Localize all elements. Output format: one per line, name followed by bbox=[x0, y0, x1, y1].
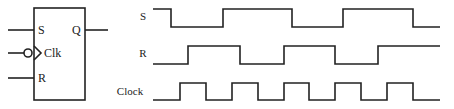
r-input-label: R bbox=[38, 71, 46, 85]
sr-flipflop-symbol: S Clk R Q bbox=[8, 8, 108, 100]
waveform-s bbox=[153, 9, 440, 27]
signal-label-s: S bbox=[140, 10, 146, 22]
timing-waveforms bbox=[153, 9, 440, 100]
signal-label-clock: Clock bbox=[117, 85, 144, 97]
q-output-label: Q bbox=[72, 23, 81, 37]
sr-flipflop-timing-diagram: S Clk R Q S R Clock bbox=[0, 0, 454, 109]
waveform-r bbox=[153, 46, 440, 64]
s-input-label: S bbox=[38, 23, 45, 37]
clk-input-label: Clk bbox=[44, 46, 61, 60]
signal-label-r: R bbox=[139, 47, 147, 59]
clock-inversion-bubble-icon bbox=[24, 49, 32, 57]
clock-triangle-icon bbox=[34, 46, 41, 60]
waveform-clock bbox=[153, 83, 440, 100]
